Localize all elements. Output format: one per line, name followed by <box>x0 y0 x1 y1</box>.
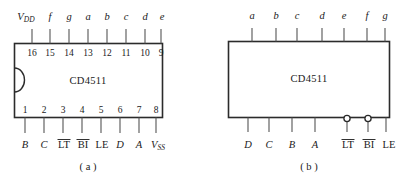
pin-number-5: 5 <box>99 105 104 115</box>
pin-number-7: 7 <box>137 105 142 115</box>
bottom-pin-labels-b: D C B A LT BI LE <box>243 139 395 150</box>
cd4511-figure: CD4511 16 15 14 13 12 11 10 <box>0 0 412 177</box>
pin-label-d-b: d <box>319 10 325 21</box>
pin-label-le-a: LE <box>96 139 109 150</box>
top-pin-labels-b: a b c d e f g <box>249 10 387 21</box>
pin-number-9: 9 <box>159 48 164 58</box>
pin-label-b-b: b <box>273 10 278 21</box>
pin-number-15: 15 <box>45 48 55 58</box>
pin-label-d-a: d <box>142 11 148 22</box>
pin-label-c-b: c <box>295 10 300 21</box>
pin-label-in-a-b: A <box>311 139 319 150</box>
top-pin-leads-b <box>252 28 385 42</box>
pin-number-6: 6 <box>118 105 123 115</box>
pin-number-3: 3 <box>61 105 66 115</box>
pin-label-vdd: VDD <box>17 11 35 24</box>
diagram-a: CD4511 16 15 14 13 12 11 10 <box>15 11 166 173</box>
pin-label-b-a: b <box>104 11 109 22</box>
pin-label-lt-a: LT <box>58 139 70 150</box>
pin-number-14: 14 <box>64 48 74 58</box>
pin-label-in-c-b: C <box>265 139 273 150</box>
pin-number-13: 13 <box>83 48 93 58</box>
pin-number-12: 12 <box>102 48 112 58</box>
inversion-bubble-lt-icon <box>344 115 350 121</box>
pin-label-a-b: a <box>249 10 254 21</box>
pin-label-le-b: LE <box>383 139 396 150</box>
pin-label-e-a: e <box>160 11 165 22</box>
figure-root: CD4511 16 15 14 13 12 11 10 <box>0 0 412 177</box>
pin-label-in-b-b: B <box>289 139 296 150</box>
pin-number-2: 2 <box>42 105 47 115</box>
top-pin-leads-a <box>32 29 161 44</box>
pin-label-bi-b: BI <box>364 139 375 150</box>
pin-label-d-input-a: D <box>115 139 124 150</box>
pin-label-g-a: g <box>66 11 71 22</box>
pin-label-a-input-a: A <box>135 139 143 150</box>
pin-label-c-input-a: C <box>40 139 48 150</box>
diagram-b: CD4511 a b c d e f g <box>229 10 396 173</box>
bottom-pin-leads-a <box>25 118 156 134</box>
pin-number-4: 4 <box>80 105 85 115</box>
chip-name-b: CD4511 <box>291 73 328 84</box>
pin-number-16: 16 <box>27 48 37 58</box>
pin-number-1: 1 <box>23 105 28 115</box>
pin-label-vss: VSS <box>151 139 165 152</box>
pin-label-in-d-b: D <box>243 139 252 150</box>
bottom-pin-labels-a: B C LT BI LE D A VSS <box>22 139 165 152</box>
pin-label-b-input-a: B <box>22 139 29 150</box>
top-pin-labels-a: VDD f g a b c d e <box>17 11 164 24</box>
pin-number-10: 10 <box>140 48 150 58</box>
chip-name-a: CD4511 <box>70 75 107 86</box>
pin-label-lt-b: LT <box>342 139 354 150</box>
caption-b: ( b ) <box>300 161 318 173</box>
pin-number-11: 11 <box>121 48 130 58</box>
pin-label-a-a: a <box>85 11 90 22</box>
caption-a: ( a ) <box>80 161 97 173</box>
pin-label-f-b: f <box>366 10 371 21</box>
pin-label-f-a: f <box>49 11 54 22</box>
pin-number-8: 8 <box>154 105 159 115</box>
pin-label-c-a: c <box>124 11 129 22</box>
inversion-bubble-bi-icon <box>365 115 371 121</box>
pin-label-e-b: e <box>342 10 347 21</box>
pin-label-g-b: g <box>382 10 387 21</box>
pin-label-bi-a: BI <box>78 139 89 150</box>
